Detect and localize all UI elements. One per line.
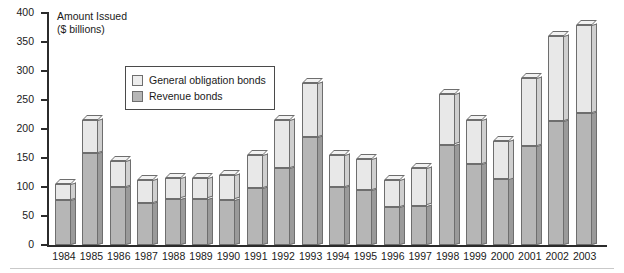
- bar-segment-general-obligation-2001: [521, 78, 537, 146]
- footer-divider: [10, 268, 614, 269]
- y-axis-label-200: 200: [0, 123, 34, 134]
- bar-side-revenue-1998: [455, 143, 460, 245]
- bar-segment-general-obligation-1988: [165, 178, 181, 198]
- bar-1996: [384, 180, 400, 245]
- bar-segment-general-obligation-1986: [110, 161, 126, 187]
- bar-side-general-obligation-1992: [290, 119, 295, 168]
- legend-swatch-revenue: [132, 91, 143, 102]
- x-axis: [47, 245, 607, 247]
- bar-segment-general-obligation-1990: [219, 175, 235, 199]
- bar-side-revenue-1989: [208, 197, 213, 245]
- bar-side-general-obligation-1989: [208, 177, 213, 199]
- bar-side-revenue-1985: [98, 152, 103, 245]
- bar-segment-general-obligation-2000: [493, 141, 509, 180]
- bar-side-revenue-1984: [71, 198, 76, 245]
- bar-side-revenue-1999: [482, 162, 487, 245]
- y-axis-label-250: 250: [0, 94, 34, 105]
- bar-side-general-obligation-1988: [181, 177, 186, 199]
- y-axis-label-150: 150: [0, 152, 34, 163]
- bar-segment-general-obligation-1992: [274, 120, 290, 168]
- bar-side-revenue-1994: [345, 185, 350, 245]
- legend-label-general-obligation: General obligation bonds: [149, 75, 266, 86]
- x-axis-label-2003: 2003: [568, 251, 602, 262]
- bar-segment-revenue-1999: [466, 164, 482, 245]
- bar-2001: [521, 78, 537, 245]
- bar-1995: [356, 159, 372, 245]
- bar-segment-general-obligation-1997: [411, 168, 427, 205]
- legend-swatch-general-obligation: [132, 75, 143, 86]
- bar-segment-revenue-1995: [356, 190, 372, 245]
- bar-segment-revenue-1988: [165, 199, 181, 245]
- bar-side-general-obligation-1990: [235, 174, 240, 200]
- bar-segment-revenue-2001: [521, 146, 537, 245]
- bar-segment-revenue-1996: [384, 207, 400, 245]
- bar-1987: [137, 180, 153, 245]
- bar-segment-revenue-1992: [274, 168, 290, 245]
- chart-legend: General obligation bonds Revenue bonds: [125, 66, 275, 110]
- bar-segment-revenue-1993: [302, 137, 318, 245]
- bar-segment-revenue-1994: [329, 187, 345, 245]
- bar-segment-general-obligation-1998: [439, 94, 455, 144]
- bar-segment-revenue-1991: [247, 188, 263, 245]
- bar-1989: [192, 178, 208, 245]
- bar-segment-general-obligation-1993: [302, 83, 318, 137]
- bar-1985: [82, 120, 98, 245]
- y-axis-label-400: 400: [0, 7, 34, 18]
- bar-1984: [55, 184, 71, 245]
- bar-segment-general-obligation-1984: [55, 184, 71, 200]
- bar-1994: [329, 155, 345, 245]
- bar-side-revenue-1987: [153, 202, 158, 245]
- bar-segment-general-obligation-1985: [82, 120, 98, 153]
- bar-side-revenue-1988: [181, 197, 186, 245]
- bar-segment-general-obligation-1996: [384, 180, 400, 207]
- bar-1998: [439, 94, 455, 245]
- bar-segment-revenue-1997: [411, 206, 427, 245]
- bar-side-general-obligation-1984: [71, 182, 76, 199]
- bar-side-general-obligation-1998: [455, 93, 460, 145]
- bar-side-general-obligation-1999: [482, 119, 487, 164]
- bar-segment-general-obligation-1999: [466, 120, 482, 164]
- bar-side-general-obligation-1997: [427, 167, 432, 206]
- bar-1993: [302, 83, 318, 245]
- bar-side-general-obligation-2002: [564, 35, 569, 122]
- bar-1999: [466, 120, 482, 245]
- bar-segment-revenue-2002: [548, 121, 564, 245]
- bar-segment-revenue-1985: [82, 153, 98, 245]
- bar-1988: [165, 178, 181, 245]
- bar-side-general-obligation-1987: [153, 178, 158, 203]
- bar-side-revenue-1990: [235, 198, 240, 245]
- bar-segment-general-obligation-1987: [137, 180, 153, 203]
- bar-segment-revenue-2003: [576, 113, 592, 245]
- bar-segment-revenue-1989: [192, 199, 208, 245]
- bar-side-general-obligation-2003: [592, 23, 597, 113]
- bar-segment-revenue-1986: [110, 187, 126, 245]
- bar-1986: [110, 161, 126, 245]
- bar-segment-revenue-1998: [439, 145, 455, 245]
- bar-1990: [219, 175, 235, 245]
- bar-side-general-obligation-2001: [537, 76, 542, 146]
- bar-side-general-obligation-1993: [318, 81, 323, 137]
- bar-1997: [411, 168, 427, 245]
- bar-side-revenue-1997: [427, 204, 432, 245]
- plot-area: [47, 13, 607, 245]
- bar-side-revenue-2003: [592, 111, 597, 245]
- bar-side-general-obligation-1991: [263, 154, 268, 189]
- legend-item-revenue: Revenue bonds: [132, 88, 266, 104]
- y-axis-label-0: 0: [0, 239, 34, 250]
- y-axis-label-300: 300: [0, 65, 34, 76]
- legend-label-revenue: Revenue bonds: [149, 91, 223, 102]
- bar-1991: [247, 155, 263, 245]
- bar-segment-general-obligation-1991: [247, 155, 263, 188]
- bar-side-revenue-2000: [509, 178, 514, 245]
- bar-segment-general-obligation-2002: [548, 36, 564, 121]
- bar-2000: [493, 141, 509, 245]
- y-axis-label-100: 100: [0, 181, 34, 192]
- bar-side-revenue-1996: [400, 206, 405, 245]
- bar-side-general-obligation-1986: [126, 159, 131, 187]
- bar-segment-revenue-1984: [55, 200, 71, 245]
- legend-item-general-obligation: General obligation bonds: [132, 72, 266, 88]
- bar-segment-revenue-1990: [219, 200, 235, 245]
- bar-segment-general-obligation-1995: [356, 159, 372, 190]
- bar-segment-revenue-2000: [493, 179, 509, 245]
- bar-side-revenue-1995: [372, 188, 377, 245]
